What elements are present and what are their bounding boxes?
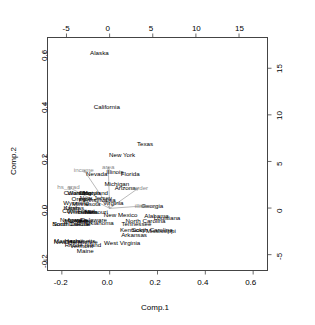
biplot-figure: AlaskaCaliforniaTexasNew YorkIllinoisFlo… xyxy=(0,0,315,325)
y-tick-label: 0.2 xyxy=(40,153,49,164)
loading-label-income: income xyxy=(74,167,94,173)
y-tick-label: -0.2 xyxy=(40,254,49,268)
state-label: North Dakota xyxy=(52,221,88,227)
state-label: Virginia xyxy=(103,200,124,206)
state-label: West Virginia xyxy=(104,239,140,245)
y-tick-label-right: 0 xyxy=(275,209,284,213)
y-tick-label-right: 5 xyxy=(275,162,284,166)
x-tick-label-top: 15 xyxy=(235,24,244,33)
state-label: New York xyxy=(109,152,135,158)
x-tick-label-top: -5 xyxy=(62,24,69,33)
state-label: Mississippi xyxy=(146,228,176,234)
loading-label-murder: murder xyxy=(129,185,149,191)
plot-box-border xyxy=(48,38,268,271)
x-tick-label-top: 0 xyxy=(106,24,110,33)
x-axis-title: Comp.1 xyxy=(141,303,169,312)
loading-label-illiteracy: illiteracy xyxy=(135,203,157,209)
x-tick-label: 0.0 xyxy=(102,278,113,287)
state-label: Florida xyxy=(121,171,140,177)
x-tick-label-top: 5 xyxy=(149,24,153,33)
y-tick-label: 0.4 xyxy=(40,102,49,113)
state-label: California xyxy=(94,104,120,110)
y-tick-label-right: -5 xyxy=(275,253,284,260)
x-tick-label: 0.4 xyxy=(197,278,208,287)
state-label: Maine xyxy=(77,248,94,254)
y-tick-label: 0.0 xyxy=(40,205,49,216)
x-tick-label-top: 10 xyxy=(192,24,201,33)
x-tick-label: 0.2 xyxy=(150,278,161,287)
y-tick-label: 0.6 xyxy=(40,50,49,61)
y-axis-title: Comp.2 xyxy=(9,147,18,175)
state-label: Alaska xyxy=(90,50,109,56)
loading-label-hs_grad: hs_grad xyxy=(57,184,79,190)
x-tick-label: -0.2 xyxy=(54,278,68,287)
y-tick-label-right: 10 xyxy=(275,111,284,120)
state-label: Texas xyxy=(137,141,153,147)
x-tick-label: 0.6 xyxy=(245,278,256,287)
y-tick-label-right: 15 xyxy=(275,64,284,73)
loading-label-area: area xyxy=(102,164,114,170)
